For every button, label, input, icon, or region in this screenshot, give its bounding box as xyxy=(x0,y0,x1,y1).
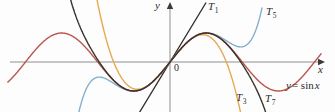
label-t5-sub: 5 xyxy=(273,11,277,20)
plot-canvas xyxy=(0,0,335,112)
x-axis-label: x xyxy=(318,64,323,75)
label-t7: T7 xyxy=(265,93,275,104)
origin-label: 0 xyxy=(174,63,179,73)
sin-label-mid: = sin xyxy=(292,79,314,91)
label-t1: T1 xyxy=(208,1,218,12)
label-t1-base: T xyxy=(208,0,214,12)
label-t5-base: T xyxy=(266,5,272,17)
curve-t5 xyxy=(64,8,262,112)
label-t7-base: T xyxy=(265,92,271,104)
label-t5: T5 xyxy=(266,6,276,17)
label-t3-sub: 3 xyxy=(243,97,247,106)
taylor-sin-figure: y x 0 T1 T5 T3 T7 y= sinx xyxy=(0,0,335,112)
label-y-equals-sin-x: y= sinx xyxy=(286,80,320,91)
label-t7-sub: 7 xyxy=(272,98,276,107)
y-axis-arrowhead-icon xyxy=(167,2,173,9)
sin-label-rhs: x xyxy=(315,79,320,91)
label-t1-sub: 1 xyxy=(215,6,219,15)
label-t3-base: T xyxy=(236,91,242,103)
sin-label-lhs: y xyxy=(286,79,291,91)
curve-t3 xyxy=(80,0,247,112)
y-axis-label: y xyxy=(155,0,160,11)
label-t3: T3 xyxy=(236,92,246,103)
